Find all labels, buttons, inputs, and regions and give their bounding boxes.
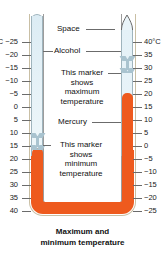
scale-tick-label: 40: [10, 207, 18, 215]
leader-mercury: [92, 122, 121, 123]
scale-tick: [133, 198, 142, 199]
scale-tick-label: 30: [10, 181, 18, 189]
scale-tick: [22, 120, 31, 121]
callout-max-line4: temperature: [60, 97, 103, 106]
scale-tick-label: 25: [144, 77, 152, 85]
scale-tick: [133, 94, 142, 95]
scale-tick: [133, 133, 142, 134]
right-limb-mercury-column: [122, 93, 133, 156]
leader-space: [86, 29, 115, 30]
thermometer-figure: °C −25−20−15−10−50510152025303540 40°C35…: [0, 0, 165, 258]
scale-tick: [22, 198, 31, 199]
scale-tick: [133, 81, 142, 82]
scale-tick-label: 25: [10, 168, 18, 176]
scale-tick-label: −5: [9, 90, 18, 98]
scale-tick-label: −5: [144, 155, 153, 163]
scale-tick-label: 15: [10, 142, 18, 150]
callout-max-line3: maximum: [65, 87, 100, 96]
scale-tick: [133, 185, 142, 186]
scale-tick-label: 5: [14, 116, 18, 124]
leader-minimum-marker: [43, 145, 51, 146]
scale-tick-label: 40°C: [144, 38, 161, 46]
leader-alcohol-left: [43, 51, 53, 52]
scale-tick: [22, 94, 31, 95]
scale-tick-label: 30: [144, 64, 152, 72]
scale-tick-label: −20: [144, 194, 157, 202]
callout-max-line1: This marker: [61, 68, 103, 77]
scale-tick: [133, 68, 142, 69]
scale-tick: [133, 211, 142, 212]
callout-mercury: Mercury: [58, 117, 87, 127]
maximum-scale: 40°C35302520151050−5−10−15−20−25: [133, 0, 165, 258]
scale-tick: [22, 81, 31, 82]
scale-tick: [133, 172, 142, 173]
scale-tick-label: −20: [5, 51, 18, 59]
scale-tick: [22, 211, 31, 212]
scale-tick-label: −15: [5, 64, 18, 72]
scale-tick: [22, 68, 31, 69]
leader-alcohol-right: [86, 51, 121, 52]
scale-tick: [22, 185, 31, 186]
scale-tick: [133, 120, 142, 121]
scale-tick-label: 35: [10, 194, 18, 202]
scale-unit-label: °C: [0, 37, 3, 46]
callout-minimum-marker: This marker shows minimum temperature: [50, 140, 112, 178]
scale-tick: [22, 146, 31, 147]
scale-tick-label: −10: [144, 168, 157, 176]
scale-tick: [133, 42, 142, 43]
callout-min-line4: temperature: [59, 169, 102, 178]
leader-maximum-marker: [108, 73, 121, 74]
callout-min-line2: shows: [70, 150, 93, 159]
figure-caption: Maximum and minimum temperature: [0, 227, 165, 248]
scale-tick: [22, 159, 31, 160]
scale-tick-label: 20: [144, 90, 152, 98]
callout-alcohol: Alcohol: [54, 46, 80, 56]
scale-tick-label: 20: [10, 155, 18, 163]
scale-tick: [133, 159, 142, 160]
scale-tick-label: −25: [144, 207, 157, 215]
scale-tick-label: 0: [14, 103, 18, 111]
scale-tick: [133, 107, 142, 108]
caption-line-1: Maximum and: [0, 227, 165, 238]
scale-tick-label: 15: [144, 103, 152, 111]
callout-min-line1: This marker: [60, 140, 102, 149]
callout-space: Space: [57, 24, 80, 34]
scale-tick: [22, 107, 31, 108]
scale-tick-label: 10: [144, 116, 152, 124]
scale-tick-label: −10: [5, 77, 18, 85]
minimum-scale: °C −25−20−15−10−50510152025303540: [0, 0, 40, 258]
scale-tick-label: 5: [144, 129, 148, 137]
scale-tick: [133, 146, 142, 147]
callout-maximum-marker: This marker shows maximum temperature: [52, 68, 112, 106]
scale-tick: [133, 55, 142, 56]
scale-tick: [22, 133, 31, 134]
caption-line-2: minimum temperature: [0, 238, 165, 249]
maximum-index-marker-icon: [121, 56, 134, 73]
scale-tick-label: 35: [144, 51, 152, 59]
scale-unit-label: °C: [152, 37, 160, 46]
scale-tick-label: 0: [144, 142, 148, 150]
marker-tip-bottom: [121, 68, 134, 73]
scale-tick: [22, 42, 31, 43]
callout-min-line3: minimum: [65, 159, 97, 168]
callout-max-line2: shows: [71, 78, 94, 87]
scale-tick-label: °C −25: [0, 38, 18, 46]
scale-tick: [22, 172, 31, 173]
scale-tick: [22, 55, 31, 56]
scale-tick-label: 10: [10, 129, 18, 137]
scale-tick-label: −15: [144, 181, 157, 189]
